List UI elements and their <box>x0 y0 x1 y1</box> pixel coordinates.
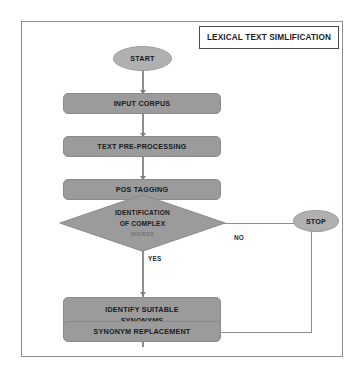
node-synonym-replacement-label: SYNONYM REPLACEMENT <box>94 326 191 337</box>
connector-feedback-up-to-stop <box>311 228 312 332</box>
arrowhead-identify-synonyms <box>140 292 146 296</box>
node-stop[interactable]: STOP <box>293 210 339 232</box>
diamond-shape <box>59 194 226 252</box>
node-input-corpus-label: INPUT CORPUS <box>114 98 171 109</box>
diagram-frame: YES NO START INPUT CORPUS TEXT PRE-PROCE… <box>21 21 343 357</box>
node-start-label: START <box>130 54 154 63</box>
node-input-corpus[interactable]: INPUT CORPUS <box>63 93 221 114</box>
node-text-preprocessing[interactable]: TEXT PRE-PROCESSING <box>63 136 221 157</box>
node-text-preprocessing-label: TEXT PRE-PROCESSING <box>97 141 186 152</box>
figure-title: LEXICAL TEXT SIMLIFICATION <box>207 33 331 42</box>
node-identification-decision[interactable]: IDENTIFICATION OF COMPLEX WORDS <box>59 194 226 252</box>
node-synonym-replacement[interactable]: SYNONYM REPLACEMENT <box>63 321 221 342</box>
node-identify-synonyms-line-1: IDENTIFY SUITABLE <box>105 304 178 315</box>
flowchart-figure: YES NO START INPUT CORPUS TEXT PRE-PROCE… <box>0 0 361 375</box>
node-start[interactable]: START <box>113 46 172 71</box>
edge-label-yes: YES <box>148 255 161 262</box>
figure-title-box: LEXICAL TEXT SIMLIFICATION <box>199 26 339 49</box>
node-stop-label: STOP <box>306 217 326 226</box>
edge-label-no: NO <box>234 234 244 241</box>
connector-decision-yes-to-synonyms <box>142 251 143 297</box>
